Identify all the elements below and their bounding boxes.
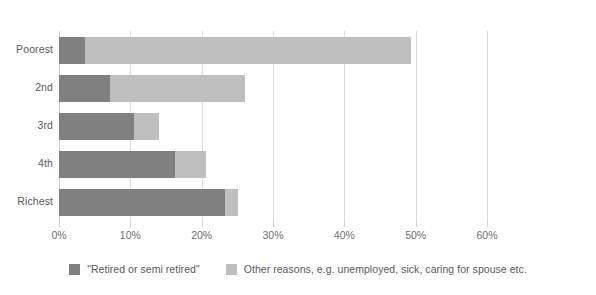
tick-60% [487,221,488,227]
legend-label-other: Other reasons, e.g. unemployed, sick, ca… [244,263,527,275]
bar-segment-richest-other [225,189,238,216]
bar-row-3rd [59,113,487,140]
plot-area: 0%10%20%30%40%50%60% [59,31,487,221]
bar-segment-3rd-other [134,113,159,140]
gridline-60% [487,31,488,221]
category-axis: Poorest 2nd 3rd 4th Richest [0,31,53,221]
x-tick-label-10%: 10% [120,229,141,241]
stacked-bar-chart: Poorest 2nd 3rd 4th Richest 0%10%20%30%4… [0,0,596,295]
tick-30% [273,221,274,227]
x-tick-label-40%: 40% [334,229,355,241]
x-tick-label-60%: 60% [476,229,497,241]
bar-segment-2nd-retired [59,75,110,102]
tick-20% [202,221,203,227]
category-label-richest: Richest [0,195,53,207]
x-tick-label-20%: 20% [191,229,212,241]
tick-40% [344,221,345,227]
x-tick-label-30%: 30% [262,229,283,241]
legend-swatch-retired [69,264,80,275]
chart-legend: "Retired or semi retired" Other reasons,… [0,258,596,280]
legend-item-other: Other reasons, e.g. unemployed, sick, ca… [226,263,527,275]
legend-swatch-other [226,264,237,275]
x-tick-label-0%: 0% [51,229,66,241]
category-label-3rd: 3rd [0,119,53,131]
bar-segment-4th-other [175,151,206,178]
bar-row-poorest [59,37,487,64]
category-label-2nd: 2nd [0,81,53,93]
bar-segment-4th-retired [59,151,175,178]
x-tick-label-50%: 50% [405,229,426,241]
bar-row-4th [59,151,487,178]
bar-row-2nd [59,75,487,102]
bar-row-richest [59,189,487,216]
tick-50% [416,221,417,227]
legend-label-retired: "Retired or semi retired" [87,263,200,275]
bar-segment-3rd-retired [59,113,134,140]
legend-item-retired: "Retired or semi retired" [69,263,200,275]
tick-0% [59,221,60,227]
category-label-poorest: Poorest [0,43,53,55]
tick-10% [130,221,131,227]
bar-segment-richest-retired [59,189,225,216]
bar-segment-2nd-other [110,75,245,102]
bar-segment-poorest-other [85,37,411,64]
bar-segment-poorest-retired [59,37,85,64]
category-label-4th: 4th [0,157,53,169]
